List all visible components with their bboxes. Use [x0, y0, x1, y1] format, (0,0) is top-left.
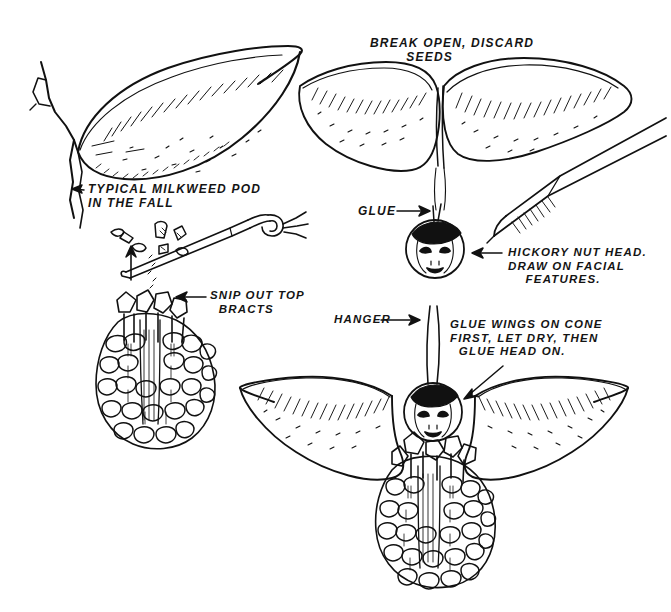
label-hanger: HANGER — [334, 313, 391, 327]
label-break-open: BREAK OPEN, DISCARD SEEDS — [370, 36, 534, 64]
figure-split-pod — [299, 58, 631, 210]
label-hickory-nut-head: HICKORY NUT HEAD. DRAW ON FACIAL FEATURE… — [508, 246, 647, 287]
label-glue-wings: GLUE WINGS ON CONE FIRST, LET DRY, THEN … — [450, 318, 603, 359]
figure-nut-head — [406, 204, 464, 278]
line-drawing — [0, 0, 671, 612]
label-glue: GLUE — [358, 204, 396, 218]
figure-snipped-bracts — [111, 222, 188, 288]
illustration-canvas: TYPICAL MILKWEED POD IN THE FALL BREAK O… — [0, 0, 671, 612]
arrow-icon — [72, 185, 82, 193]
figure-scissors — [121, 212, 308, 278]
label-typical-pod: TYPICAL MILKWEED POD IN THE FALL — [88, 182, 261, 210]
label-snip-bracts: SNIP OUT TOP BRACTS — [210, 289, 305, 316]
figure-pine-cone-snip — [96, 290, 217, 449]
